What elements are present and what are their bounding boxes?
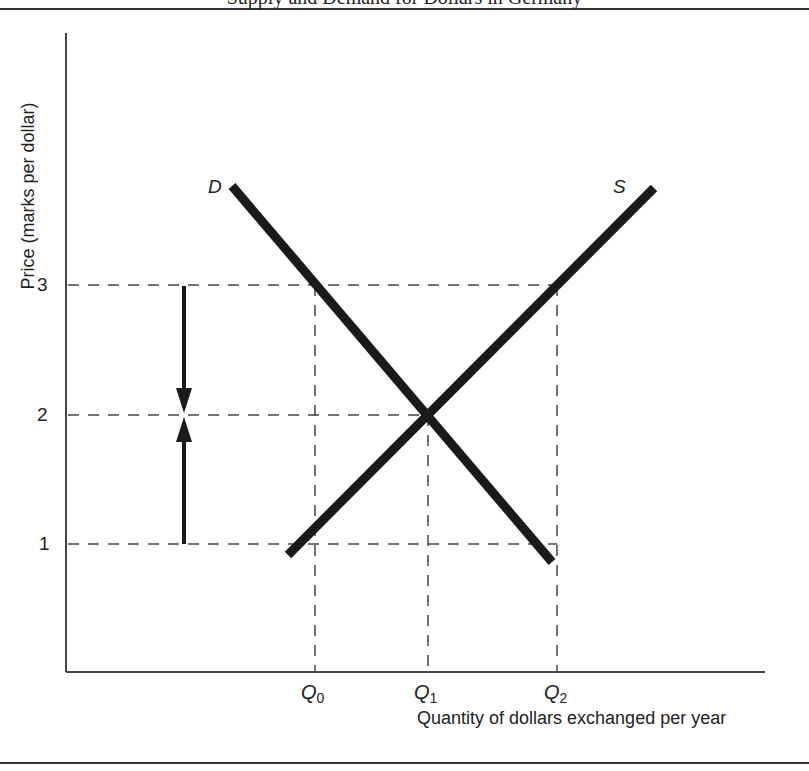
y-tick-1: 1 [39,533,50,555]
down-arrow [176,286,192,413]
y-tick-2: 2 [37,404,48,426]
x-tick-q2: Q2 [544,681,567,706]
x-tick-q0: Q0 [301,681,324,706]
demand-curve [232,186,552,562]
up-arrow [176,417,192,544]
demand-label: D [208,176,222,198]
supply-label: S [613,176,626,198]
x-axis-label: Quantity of dollars exchanged per year [417,708,726,729]
y-axis-label: Price (marks per dollar) [18,102,39,289]
quantity-reference-lines [315,285,557,672]
price-reference-lines [68,285,557,544]
bottom-rule [0,762,809,764]
y-tick-3: 3 [37,274,48,296]
supply-curve [288,188,654,555]
chart-plot [0,0,809,771]
x-tick-q1: Q1 [414,681,437,706]
